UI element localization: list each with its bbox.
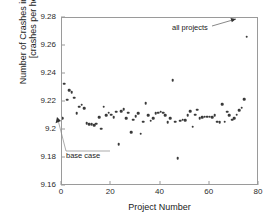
annotation-base-case: base case [66, 152, 100, 160]
data-point [240, 106, 243, 109]
data-point [196, 108, 199, 111]
data-point [167, 121, 170, 124]
x-axis-tick-label: 20 [106, 188, 115, 196]
data-point [105, 114, 108, 117]
data-point [243, 98, 246, 101]
data-point [236, 113, 239, 116]
data-point [144, 102, 147, 105]
data-point [149, 120, 152, 123]
data-point [130, 131, 133, 134]
data-point [189, 110, 192, 113]
data-point [83, 107, 86, 110]
data-point [100, 127, 103, 130]
data-point [152, 117, 155, 120]
data-point [226, 111, 229, 114]
data-point [135, 115, 138, 118]
x-axis-tick-mark [208, 181, 209, 185]
data-point [71, 91, 74, 94]
x-axis-tick-mark [258, 181, 259, 185]
data-point [194, 113, 197, 116]
y-axis-tick-mark [61, 129, 65, 130]
data-point [164, 114, 167, 117]
y-axis-tick-label: 9.2 [22, 125, 56, 133]
data-point [238, 109, 241, 112]
data-point [137, 112, 140, 115]
data-point [218, 121, 221, 124]
data-point [127, 111, 130, 114]
data-point [147, 114, 150, 117]
data-point [66, 99, 69, 102]
data-point [169, 117, 172, 120]
data-point [221, 103, 224, 106]
data-point [228, 114, 231, 117]
data-point [103, 106, 106, 109]
data-point [174, 120, 177, 123]
data-point [125, 117, 128, 120]
y-axis-tick-mark [61, 101, 65, 102]
data-point [62, 117, 63, 120]
y-axis-tick-label: 9.22 [22, 97, 56, 105]
data-point [122, 108, 125, 111]
y-axis-tick-mark [61, 73, 65, 74]
data-point [142, 120, 145, 123]
data-point [132, 118, 135, 121]
data-point [140, 132, 143, 135]
y-axis-tick-mark [61, 45, 65, 46]
data-point [73, 97, 76, 100]
x-axis-title: Project Number [61, 202, 258, 212]
y-axis-tick-mark [61, 157, 65, 158]
x-axis-tick-label: 40 [155, 188, 164, 196]
data-point [115, 111, 118, 114]
data-point [191, 125, 194, 128]
y-axis-tick-label: 9.16 [22, 181, 56, 189]
scatter-chart-figure: Number of Crashes in Sections [crashes p… [0, 0, 273, 223]
data-point [223, 120, 226, 123]
y-axis-tick-label: 9.18 [22, 153, 56, 161]
data-point [176, 157, 179, 160]
data-point [117, 143, 120, 146]
x-axis-tick-label: 0 [59, 188, 63, 196]
data-point [245, 36, 248, 39]
x-axis-tick-mark [110, 181, 111, 185]
x-axis-tick-mark [61, 181, 62, 185]
data-point [233, 117, 236, 120]
data-point [186, 114, 189, 117]
data-point [95, 122, 98, 125]
y-axis-tick-mark [61, 185, 65, 186]
data-point [75, 112, 78, 115]
data-point [80, 104, 83, 107]
x-axis-tick-mark [159, 181, 160, 185]
y-axis-tick-label: 9.24 [22, 69, 56, 77]
data-point [112, 116, 115, 119]
annotation-all-projects: all projects [172, 24, 208, 32]
y-axis-tick-label: 9.28 [22, 13, 56, 21]
data-point [184, 119, 187, 122]
data-point [63, 83, 66, 86]
y-axis-tick-label: 9.26 [22, 41, 56, 49]
data-point [98, 116, 101, 119]
data-point [172, 79, 175, 82]
y-axis-tick-mark [61, 17, 65, 18]
x-axis-tick-label: 80 [254, 188, 263, 196]
x-axis-tick-label: 60 [204, 188, 213, 196]
data-point [213, 114, 216, 117]
